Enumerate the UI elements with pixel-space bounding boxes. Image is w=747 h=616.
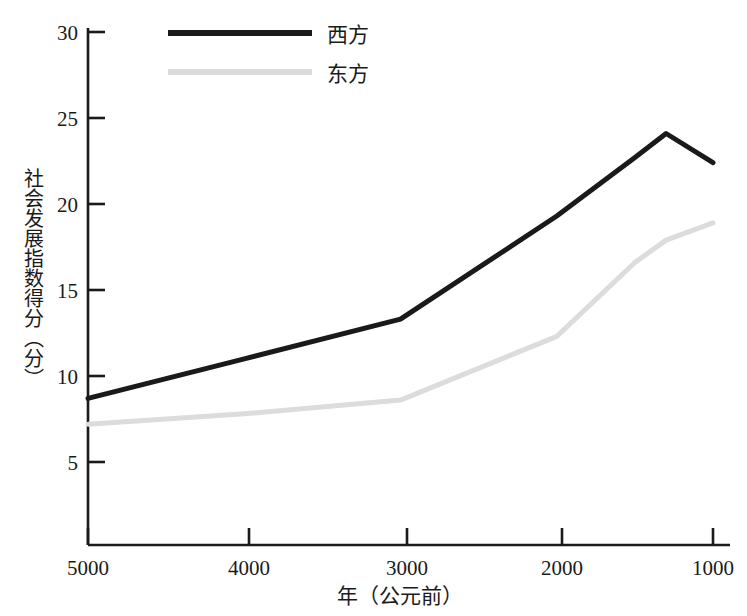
chart-plot-area: 30 25 20 15 10 5 5000 4000 3000 2000 100… [0, 0, 747, 616]
legend-label-west: 西方 [327, 23, 369, 47]
x-tick-label-3000: 3000 [386, 556, 428, 580]
x-tick-label-1000: 1000 [692, 556, 734, 580]
chart-container: 社会发展指数得分（分） 30 25 20 15 10 5 [0, 0, 747, 616]
x-axis-ticks [88, 528, 713, 545]
x-tick-label-4000: 4000 [228, 556, 270, 580]
y-tick-label-15: 15 [57, 279, 78, 303]
y-tick-label-10: 10 [57, 365, 78, 389]
legend-label-east: 东方 [327, 62, 369, 86]
legend: 西方 东方 [168, 23, 369, 86]
y-tick-label-25: 25 [57, 107, 78, 131]
x-axis-title: 年（公元前） [337, 584, 463, 608]
series-line-west [88, 134, 713, 399]
x-tick-label-2000: 2000 [541, 556, 583, 580]
y-tick-label-20: 20 [57, 193, 78, 217]
series-line-east [88, 223, 713, 424]
y-tick-label-5: 5 [68, 451, 79, 475]
y-tick-label-30: 30 [57, 21, 78, 45]
x-tick-label-5000: 5000 [67, 556, 109, 580]
